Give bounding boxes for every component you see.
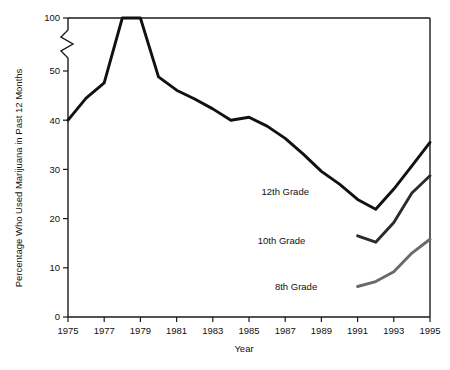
x-tick-label: 1987 — [275, 325, 296, 336]
annotation-10th-grade: 10th Grade — [258, 235, 306, 246]
y-axis-break-mark — [61, 30, 73, 58]
x-tick-label: 1985 — [238, 325, 259, 336]
x-tick-label: 1981 — [166, 325, 187, 336]
x-tick-label: 1983 — [202, 325, 223, 336]
y-tick-label: 40 — [49, 115, 60, 126]
y-tick-label: 30 — [49, 164, 60, 175]
y-tick-label: 50 — [49, 65, 60, 76]
series-line-8th-grade — [358, 239, 430, 286]
x-tick-label: 1989 — [311, 325, 332, 336]
y-tick-label: 20 — [49, 213, 60, 224]
marijuana-use-line-chart: 01020304050100 1975197719791981198319851… — [0, 0, 450, 370]
y-tick-label: 100 — [44, 12, 60, 23]
series-line-10th-grade — [358, 176, 430, 242]
y-axis-title: Percentage Who Used Marijuana in Past 12… — [13, 68, 24, 287]
x-tick-label: 1979 — [130, 325, 151, 336]
series-lines — [68, 18, 430, 287]
y-tick-label: 10 — [49, 262, 60, 273]
x-axis: 1975197719791981198319851987198919911993… — [57, 317, 440, 336]
chart-container: 01020304050100 1975197719791981198319851… — [0, 0, 450, 370]
x-tick-label: 1977 — [94, 325, 115, 336]
annotation-12th-grade: 12th Grade — [261, 186, 309, 197]
x-axis-title: Year — [234, 343, 253, 354]
y-tick-label: 0 — [55, 311, 60, 322]
x-tick-label: 1995 — [419, 325, 440, 336]
y-axis: 01020304050100 — [44, 12, 68, 322]
x-tick-label: 1975 — [57, 325, 78, 336]
series-annotations: 12th Grade10th Grade8th Grade — [258, 186, 317, 292]
plot-frame — [61, 18, 430, 317]
annotation-8th-grade: 8th Grade — [275, 281, 317, 292]
series-line-12th-grade — [68, 18, 430, 209]
x-tick-label: 1991 — [347, 325, 368, 336]
x-tick-label: 1993 — [383, 325, 404, 336]
